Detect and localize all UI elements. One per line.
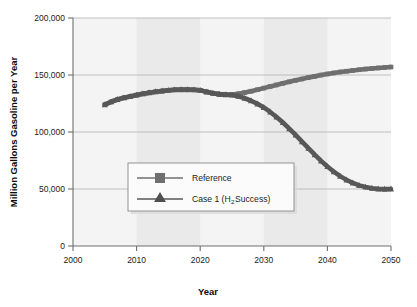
legend[interactable]: Reference Case 1 (H 2 Success) (128, 163, 297, 214)
square-marker-icon (312, 74, 317, 79)
x-tick-label-2020: 2020 (191, 255, 210, 265)
x-tick-label-2050: 2050 (382, 255, 401, 265)
square-marker-icon (382, 65, 387, 70)
square-marker-icon (268, 84, 273, 89)
legend-label-case1-tail: Success) (235, 194, 270, 204)
x-tick-label-2010: 2010 (127, 255, 146, 265)
x-tick-label-2000: 2000 (64, 255, 83, 265)
y-tick-label-150000: 150,000 (34, 70, 65, 80)
square-marker-icon (344, 69, 349, 74)
x-tick-label-2040: 2040 (318, 255, 337, 265)
square-marker-icon (306, 75, 311, 80)
square-marker-icon (363, 67, 368, 72)
square-marker-icon (370, 66, 375, 71)
square-marker-icon (319, 73, 324, 78)
square-marker-icon (262, 86, 267, 91)
square-marker-icon (338, 70, 343, 75)
legend-label-reference: Reference (192, 173, 232, 183)
legend-label-case1-main: Case 1 (H (192, 194, 231, 204)
square-marker-icon (389, 65, 394, 70)
y-tick-label-50000: 50,000 (39, 184, 65, 194)
y-tick-label-200000: 200,000 (34, 13, 65, 23)
square-marker-icon (287, 80, 292, 85)
square-marker-icon (300, 77, 305, 82)
x-axis-title: Year (198, 286, 218, 297)
square-marker-icon (242, 90, 247, 95)
square-marker-icon (255, 87, 260, 92)
square-marker-icon (293, 78, 298, 83)
chart-canvas: 050,000100,000150,000200,000 20002010202… (0, 0, 417, 307)
x-tick-label-2030: 2030 (254, 255, 273, 265)
y-axis-title: Million Gallons Gasoline per Year (8, 57, 19, 208)
square-marker-icon (249, 89, 254, 94)
square-marker-icon (376, 66, 381, 71)
square-marker-icon (155, 173, 165, 183)
square-marker-icon (274, 83, 279, 88)
y-tick-label-0: 0 (60, 241, 65, 251)
y-tick-label-100000: 100,000 (34, 127, 65, 137)
square-marker-icon (351, 68, 356, 73)
square-marker-icon (325, 72, 330, 77)
square-marker-icon (331, 71, 336, 76)
square-marker-icon (357, 67, 362, 72)
gasoline-consumption-chart: 050,000100,000150,000200,000 20002010202… (0, 0, 417, 307)
square-marker-icon (281, 81, 286, 86)
